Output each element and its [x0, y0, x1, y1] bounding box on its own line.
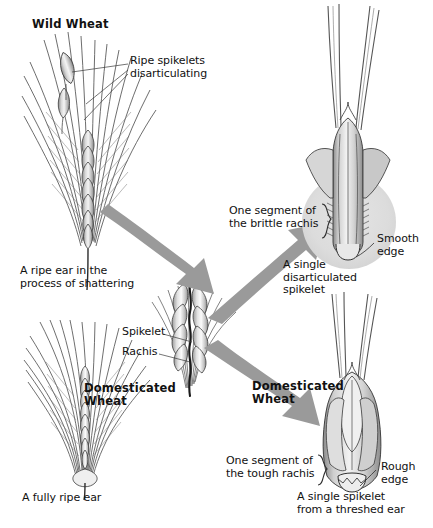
ripe-ear-shattering-caption: A ripe ear in the process of shattering	[20, 265, 134, 290]
domesticated-wheat-heading-left: Domesticated Wheat	[84, 382, 176, 407]
brittle-rachis-label: One segment of the brittle rachis	[229, 205, 318, 230]
fully-ripe-ear-caption: A fully ripe ear	[22, 492, 101, 505]
disarticulated-spikelet-caption: A single disarticulated spikelet	[283, 259, 357, 297]
figure-canvas: Wild Wheat Ripe spikelets disarticulatin…	[0, 0, 433, 528]
rachis-label: Rachis	[122, 346, 157, 359]
rough-edge-label: Rough edge	[381, 461, 415, 486]
wild-wheat-heading: Wild Wheat	[32, 18, 109, 31]
smooth-edge-label: Smooth edge	[377, 233, 419, 258]
tough-rachis-label: One segment of the tough rachis	[226, 455, 314, 480]
domesticated-wheat-heading-right: Domesticated Wheat	[252, 380, 344, 405]
threshed-spikelet-caption: A single spikelet from a threshed ear	[297, 491, 405, 516]
spikelet-label: Spikelet	[122, 326, 165, 339]
ripe-spikelets-label: Ripe spikelets disarticulating	[130, 55, 207, 80]
